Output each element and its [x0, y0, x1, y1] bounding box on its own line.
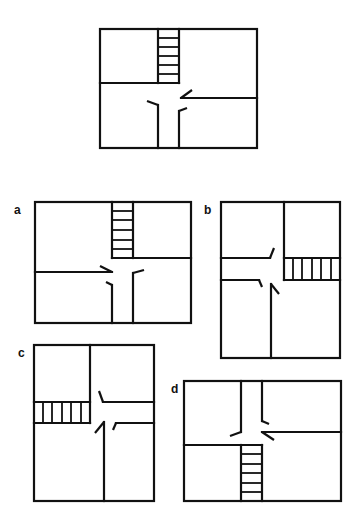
option-label-a: a	[14, 203, 21, 217]
option-b[interactable]: b	[204, 202, 340, 358]
option-label-b: b	[204, 203, 211, 217]
option-label-d: d	[171, 382, 178, 396]
staircase-steps	[293, 258, 331, 280]
staircase-steps	[112, 211, 133, 249]
staircase-steps	[43, 402, 81, 423]
staircase-steps	[158, 38, 179, 74]
floor-plan-figure: a b	[0, 0, 360, 519]
option-a[interactable]: a	[14, 202, 191, 323]
option-d[interactable]: d	[171, 381, 341, 501]
option-c[interactable]: c	[18, 345, 154, 501]
staircase-steps	[241, 454, 262, 492]
option-label-c: c	[18, 346, 25, 360]
reference-floor-plan	[100, 29, 257, 148]
